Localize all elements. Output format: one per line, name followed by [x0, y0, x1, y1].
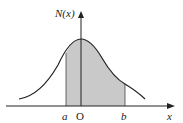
normal-distribution-diagram: N(x) x a O b — [0, 0, 183, 123]
origin-label: O — [76, 110, 84, 122]
upper-bound-label: b — [121, 110, 127, 122]
y-axis-label: N(x) — [54, 7, 75, 20]
lower-bound-label: a — [62, 110, 68, 122]
x-axis-arrow-icon — [167, 103, 175, 109]
x-axis-label: x — [166, 110, 172, 122]
y-axis-arrow-icon — [78, 11, 84, 18]
